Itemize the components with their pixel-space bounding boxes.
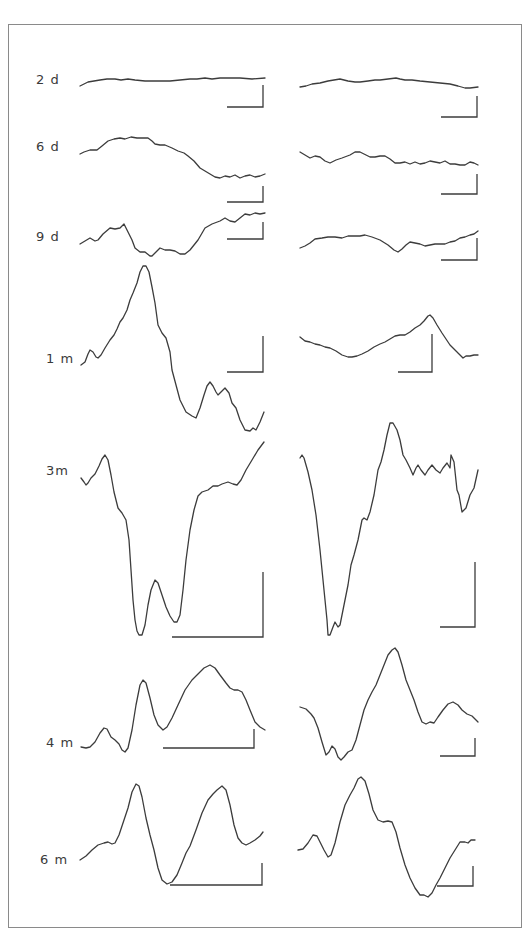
waveform-left-6d [80,137,265,178]
waveform-left-4m [81,665,265,752]
age-label-2d: 2 d [36,73,60,86]
scale-bar-right-2d [441,96,477,117]
age-label-6m: 6 m [40,853,68,866]
scale-bar-right-6d [441,174,477,194]
waveform-right-6d [300,152,478,165]
scale-bar-left-3m [172,572,263,637]
scale-bar-left-6d [227,186,263,202]
scale-bar-right-9d [441,238,477,260]
waveform-right-2d [300,78,478,88]
scale-bar-right-3m [440,562,475,627]
waveform-right-1m [300,315,478,358]
waveform-left-2d [80,78,265,86]
waveform-right-3m [300,423,478,635]
waveform-left-6m [80,784,263,884]
waveform-left-1m [81,266,264,431]
scale-bar-right-4m [440,738,475,756]
age-label-9d: 9 d [36,230,60,243]
scale-bar-right-6m [437,866,473,886]
waveform-left-3m [81,442,264,635]
scale-bar-left-4m [163,729,254,748]
waveform-right-6m [298,777,475,897]
scale-bar-left-2d [227,85,263,107]
age-label-6d: 6 d [36,140,60,153]
scale-bar-left-6m [170,863,262,885]
waveform-right-9d [300,231,478,252]
waveform-left-9d [80,213,265,256]
scale-bar-right-1m [398,334,432,372]
scale-bar-left-1m [227,336,263,372]
scale-bar-left-9d [227,222,263,239]
age-label-3m: 3m [46,464,69,477]
age-label-1m: 1 m [46,352,74,365]
age-label-4m: 4 m [46,736,74,749]
waveform-right-4m [300,648,478,760]
